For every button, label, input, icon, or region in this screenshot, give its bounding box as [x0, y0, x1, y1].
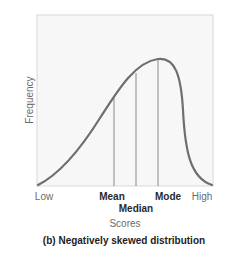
- x-tick-high: High: [192, 191, 213, 202]
- chart-canvas: [0, 0, 226, 254]
- skewed-distribution-figure: Frequency Low Mean Median Mode High Scor…: [0, 0, 226, 254]
- mode-label: Mode: [155, 191, 181, 202]
- figure-caption: (b) Negatively skewed distribution: [43, 235, 205, 246]
- mean-label: Mean: [99, 191, 125, 202]
- x-tick-low: Low: [35, 191, 53, 202]
- median-label: Median: [119, 203, 153, 214]
- x-axis-label: Scores: [109, 218, 140, 229]
- y-axis-label: Frequency: [24, 76, 35, 123]
- plot-area: [37, 15, 213, 186]
